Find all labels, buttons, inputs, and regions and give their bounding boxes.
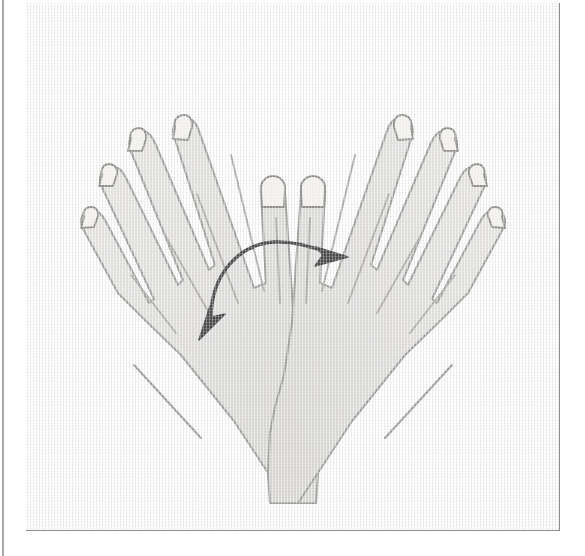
left-ring-nail bbox=[99, 164, 117, 186]
left-index-nail bbox=[173, 115, 192, 140]
right-index-nail bbox=[394, 115, 413, 140]
left-forearm-cut-edge bbox=[134, 365, 201, 438]
page-gutter-rule bbox=[2, 0, 4, 556]
right-middle-nail bbox=[440, 128, 458, 151]
right-pinky-nail bbox=[488, 207, 505, 228]
right-forearm-cut-edge bbox=[385, 365, 452, 438]
left-thumb-nail bbox=[261, 176, 285, 207]
right-hand bbox=[268, 115, 505, 503]
right-thumb-nail bbox=[301, 176, 325, 207]
left-pinky-nail bbox=[81, 207, 98, 228]
right-ring-nail bbox=[469, 164, 487, 186]
page-root bbox=[0, 0, 585, 556]
hand-rotation-figure-panel bbox=[26, 3, 560, 531]
hands-illustration bbox=[26, 3, 560, 531]
left-middle-nail bbox=[128, 128, 146, 151]
